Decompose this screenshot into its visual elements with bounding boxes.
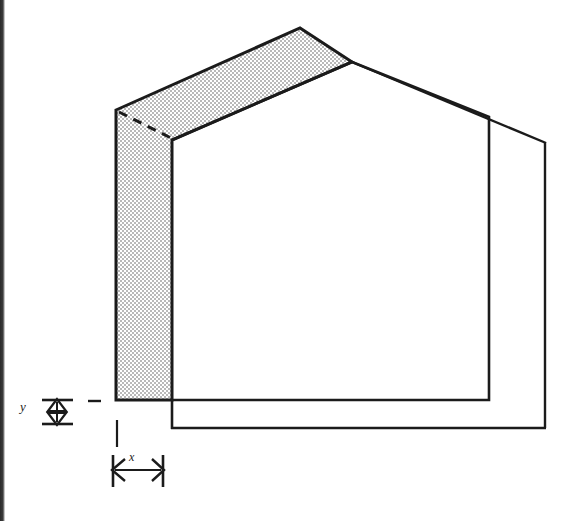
dimension-x-group bbox=[112, 420, 164, 487]
diagram-page: y x bbox=[0, 0, 568, 521]
dimension-y-group bbox=[42, 399, 101, 425]
dimension-x-label: x bbox=[129, 451, 134, 463]
technical-drawing bbox=[0, 0, 568, 521]
dimension-y-label: y bbox=[20, 400, 26, 413]
shaded-band-fill bbox=[116, 28, 352, 400]
